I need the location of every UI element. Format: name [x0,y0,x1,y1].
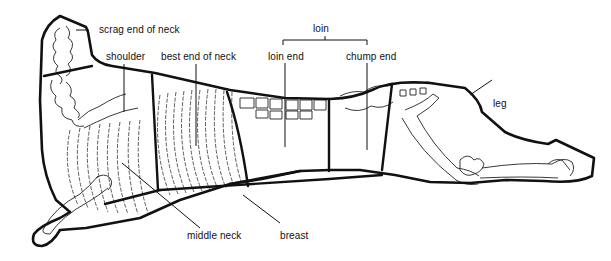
carcass-diagram [0,0,611,261]
leg-bone [402,94,574,185]
label-best-end-of-neck: best end of neck [161,51,236,62]
label-shoulder: shoulder [106,51,145,62]
label-scrag-end-of-neck: scrag end of neck [99,24,180,35]
neck-vertebrae [51,26,84,126]
label-middle-neck: middle neck [187,230,241,241]
label-leg: leg [493,98,507,109]
label-chump-end: chump end [346,51,396,62]
label-loin-group: loin [313,23,329,34]
spine-vertebrae [240,82,434,119]
label-breast: breast [280,230,308,241]
label-loin-end: loin end [268,51,304,62]
